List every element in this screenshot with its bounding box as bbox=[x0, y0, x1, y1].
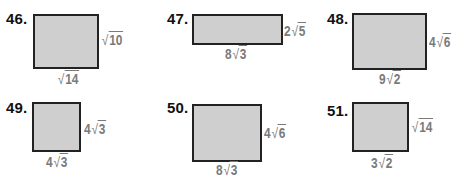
radical-sign-icon: √ bbox=[58, 71, 65, 87]
bottom-length-label: 8√3 bbox=[225, 46, 247, 62]
side-length-label: 4√3 bbox=[84, 121, 106, 137]
problem-number: 47. bbox=[167, 10, 188, 27]
problem-number: 46. bbox=[6, 10, 27, 27]
problem-number: 50. bbox=[167, 99, 188, 116]
side-length-label: 2√5 bbox=[284, 23, 306, 39]
side-length-label: √10 bbox=[101, 32, 123, 48]
rectangle-figure bbox=[192, 14, 283, 45]
side-length-label: 4√6 bbox=[264, 125, 286, 141]
rectangle-figure bbox=[352, 102, 409, 152]
bottom-length-label: 8√3 bbox=[216, 162, 238, 178]
rectangle-figure bbox=[192, 104, 262, 162]
bottom-length-label: √14 bbox=[57, 71, 79, 87]
rectangle-figure bbox=[33, 14, 99, 69]
bottom-length-label: 9√2 bbox=[379, 71, 401, 87]
problem-number: 51. bbox=[327, 102, 348, 119]
rectangle-figure bbox=[352, 13, 427, 70]
problem-number: 49. bbox=[6, 99, 27, 116]
side-length-label: √14 bbox=[411, 119, 433, 135]
radical-sign-icon: √ bbox=[102, 32, 109, 48]
side-length-label: 4√6 bbox=[429, 34, 451, 50]
bottom-length-label: 4√3 bbox=[46, 154, 68, 170]
problem-number: 48. bbox=[327, 10, 348, 27]
rectangle-figure bbox=[32, 102, 81, 152]
radical-sign-icon: √ bbox=[412, 119, 419, 135]
bottom-length-label: 3√2 bbox=[371, 155, 393, 171]
